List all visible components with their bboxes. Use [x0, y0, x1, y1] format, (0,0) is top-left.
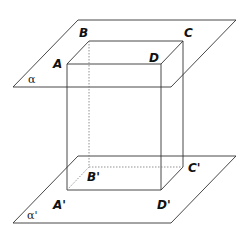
- vertex-label-c: C: [184, 26, 193, 40]
- plane-label-alpha: α: [28, 73, 36, 86]
- top-face-abcd: [67, 41, 183, 64]
- plane-alpha: [13, 20, 236, 87]
- vertex-label-b-prime: B': [87, 170, 100, 184]
- hidden-edge-a-prime-b-prime: [67, 167, 89, 190]
- vertex-label-a-prime: A': [52, 198, 66, 212]
- edge-d-prime-c-prime: [161, 167, 183, 190]
- vertex-label-c-prime: C': [188, 161, 200, 175]
- plane-label-alpha-prime: α': [27, 209, 37, 222]
- vertex-label-b: B: [79, 26, 88, 40]
- plane-alpha-prime: [13, 156, 236, 223]
- prism-between-planes-diagram: A B C D A' B' C' D' α α': [0, 0, 246, 236]
- vertex-label-a: A: [52, 57, 62, 71]
- vertex-label-d-prime: D': [157, 198, 171, 212]
- vertex-label-d: D: [149, 51, 159, 65]
